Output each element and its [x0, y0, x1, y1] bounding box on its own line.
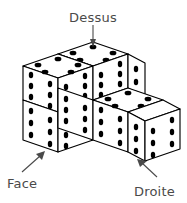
droite-leader-group	[137, 159, 157, 177]
label-droite: Droite	[134, 184, 175, 199]
droite-leader-line	[142, 163, 157, 177]
face-leader-line	[22, 156, 40, 172]
dice-diagram-figure: Dessus Face Droite	[0, 0, 187, 203]
die-arm-far	[128, 100, 180, 161]
label-dessus: Dessus	[69, 10, 117, 25]
dice-assembly-illustration: Dessus Face Droite	[0, 0, 187, 203]
face-leader-group	[22, 151, 45, 172]
label-face: Face	[7, 176, 37, 191]
die-arm-far-left-pips	[134, 124, 138, 155]
